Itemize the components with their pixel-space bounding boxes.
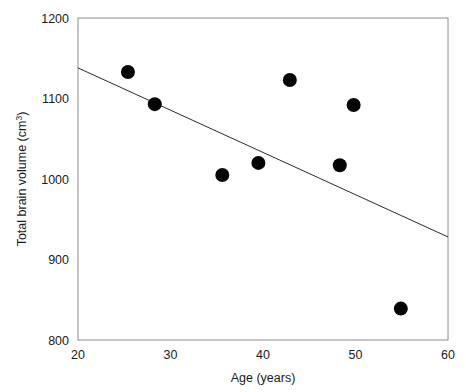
data-point [333,158,347,172]
y-tick-label: 1100 [42,92,69,106]
data-point [283,73,297,87]
y-axis-title: Total brain volume (cm3) [14,112,29,247]
figure-container: 800900100011001200 2030405060 Age (years… [0,0,466,392]
x-axis-title-text: Age (years) [231,371,296,385]
x-tick-label: 20 [71,348,85,362]
x-tick-label: 40 [256,348,270,362]
y-tick-label: 800 [48,334,69,348]
plot-frame [78,18,448,340]
x-axis-tick-labels: 2030405060 [71,348,455,362]
data-point [347,98,361,112]
y-axis-title-text: Total brain volume (cm3) [14,112,29,247]
plot-border [78,18,448,340]
trendline [78,68,448,237]
data-point [251,156,265,170]
y-tick-label: 1000 [41,173,69,187]
x-tick-label: 60 [441,348,455,362]
data-point [394,302,408,316]
regression-trendline [78,68,448,237]
data-point [148,97,162,111]
y-tick-label: 900 [48,253,69,267]
y-tick-label: 1200 [41,12,69,26]
y-axis-tick-labels: 800900100011001200 [41,12,69,348]
x-axis-title: Age (years) [231,371,296,385]
scatter-plot: 800900100011001200 2030405060 Age (years… [0,0,466,392]
x-tick-label: 30 [164,348,178,362]
data-points-group [121,65,408,316]
data-point [121,65,135,79]
x-tick-label: 50 [349,348,363,362]
data-point [215,168,229,182]
